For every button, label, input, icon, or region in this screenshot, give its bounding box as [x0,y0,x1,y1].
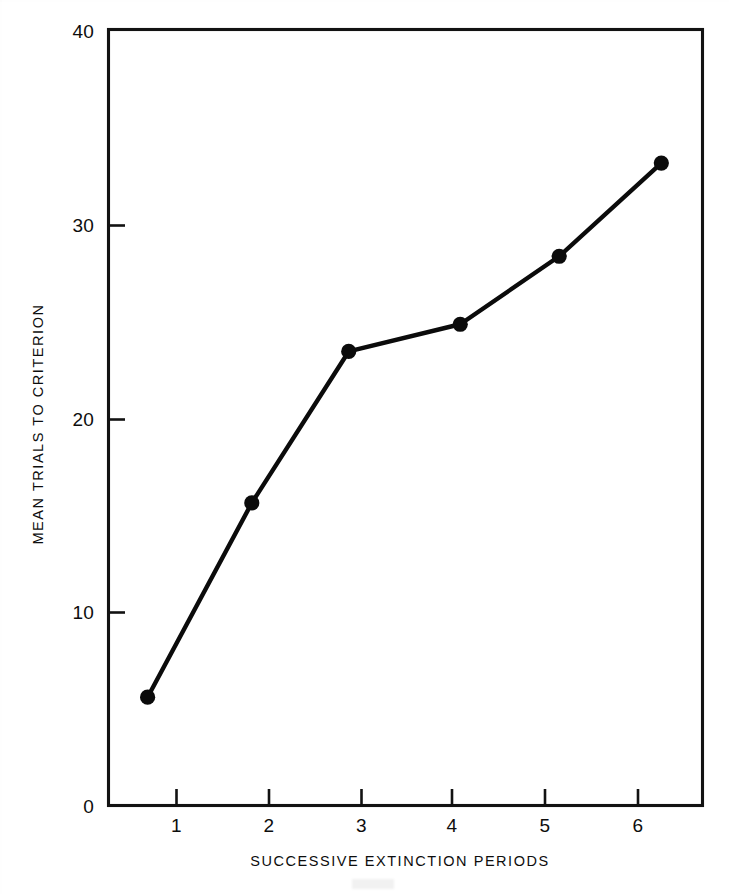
figure-root: 40 30 20 10 0 1 2 3 4 5 6 MEAN TRIALS TO… [0,0,729,894]
data-point [552,249,567,264]
x-tick-label-3: 3 [356,815,367,836]
series-markers [140,155,669,704]
data-point [654,155,669,170]
data-point [453,317,468,332]
data-series-group [140,155,669,704]
y-tick-label-0: 0 [83,796,94,817]
y-tick-label-10: 10 [72,602,94,623]
line-chart: 40 30 20 10 0 1 2 3 4 5 6 MEAN TRIALS TO… [0,0,729,894]
y-tick-label-20: 20 [72,409,94,430]
y-axis-title: MEAN TRIALS TO CRITERION [30,303,46,544]
data-point [140,690,155,705]
plot-frame [109,30,703,806]
x-tick-label-4: 4 [447,815,458,836]
x-tick-label-2: 2 [264,815,275,836]
y-axis-ticks [109,226,125,613]
x-tick-label-6: 6 [633,815,644,836]
x-axis-ticks [177,789,639,805]
y-tick-label-40: 40 [72,21,94,42]
data-point [244,495,259,510]
x-tick-labels: 1 2 3 4 5 6 [171,815,643,836]
series-line-mean-trials [148,163,662,697]
x-tick-label-5: 5 [540,815,551,836]
x-tick-label-1: 1 [171,815,182,836]
y-tick-labels: 40 30 20 10 0 [72,21,94,817]
x-axis-title: SUCCESSIVE EXTINCTION PERIODS [250,853,550,869]
data-point [341,344,356,359]
y-tick-label-30: 30 [72,215,94,236]
